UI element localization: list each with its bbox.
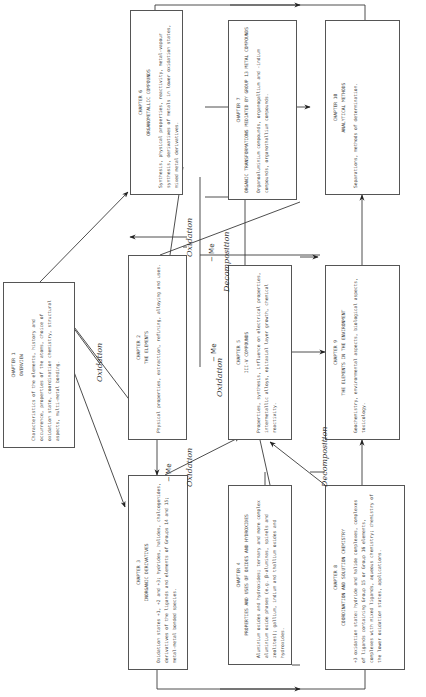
chapter-number: CHAPTER 1	[10, 289, 18, 441]
chapter-number: CHAPTER 7	[235, 27, 243, 193]
chapter-title: ORGANIC TRANSFORMATIONS MEDIATED BY GROU…	[243, 27, 251, 193]
chapter-8-box: CHAPTER 8 COORDINATION AND SOLUTION CHEM…	[325, 485, 405, 670]
chapter-description: Oxidation states +1, +2 and +3; hydrides…	[155, 482, 179, 663]
chapter-10-box: CHAPTER 10 ANALYTICAL METHODS Separation…	[325, 20, 400, 195]
chapter-number: CHAPTER 3	[135, 482, 143, 663]
chapter-title: THE ELEMENTS IN THE ENVIRONMENT	[340, 272, 348, 433]
minus-me-label: − Me	[165, 464, 173, 482]
decomposition-label: Decomposition	[320, 427, 329, 487]
chapter-description: +3 oxidation state: hydride and halide c…	[352, 492, 384, 663]
chapter-number: CHAPTER 6	[137, 17, 145, 188]
minus-me-label: − Me	[208, 244, 216, 262]
chapter-description: Characteristics of the elements, history…	[30, 289, 62, 441]
chapter-9-box: CHAPTER 9 THE ELEMENTS IN THE ENVIRONMEN…	[325, 265, 400, 440]
chapter-number: CHAPTER 4	[235, 492, 243, 658]
chapter-title: INORGANIC DERIVATIVES	[143, 482, 151, 663]
decomposition-label: Decomposition	[222, 232, 231, 292]
chapter-7-box: CHAPTER 7 ORGANIC TRANSFORMATIONS MEDIAT…	[228, 20, 297, 200]
chapter-number: CHAPTER 2	[135, 262, 143, 433]
chapter-number: CHAPTER 8	[332, 492, 340, 663]
chapter-title: III-V COMPOUNDS	[243, 272, 251, 433]
chapter-description: Synthesis, physical properties, reactivi…	[157, 17, 181, 188]
oxidation-label: Oxidation	[185, 218, 194, 257]
oxidation-label: Oxidation	[215, 358, 224, 397]
diagram-canvas: CHAPTER 1 OVERVIEW Characteristics of th…	[0, 0, 426, 697]
chapter-title: ORGANOMETALLIC COMPOUNDS	[145, 17, 153, 188]
chapter-number: CHAPTER 9	[332, 272, 340, 433]
oxidation-label: Oxidation	[185, 448, 194, 487]
chapter-description: Geochemistry, environmental aspects, bio…	[352, 272, 368, 433]
chapter-number: CHAPTER 5	[235, 272, 243, 433]
oxidation-label: Oxidation	[95, 343, 104, 382]
chapter-4-box: CHAPTER 4 PROPERTIES AND USES OF OXIDES …	[228, 485, 292, 665]
minus-me-label: − Me	[210, 344, 218, 362]
chapter-description: Aluminium oxides and hydroxides; ternary…	[255, 492, 287, 658]
chapter-title: THE ELEMENTS	[143, 262, 151, 433]
chapter-title: COORDINATION AND SOLUTION CHEMISTRY	[340, 492, 348, 663]
chapter-title: ANALYTICAL METHODS	[340, 27, 348, 188]
chapter-description: Properties, synthesis, influence on elec…	[255, 272, 279, 433]
chapter-description: Separations, methods of determination.	[352, 27, 360, 188]
chapter-1-box: CHAPTER 1 OVERVIEW Characteristics of th…	[3, 282, 75, 448]
chapter-title: PROPERTIES AND USES OF OXIDES AND HYDROX…	[243, 492, 251, 658]
chapter-2-box: CHAPTER 2 THE ELEMENTS Physical properti…	[128, 255, 187, 440]
chapter-6-box: CHAPTER 6 ORGANOMETALLIC COMPOUNDS Synth…	[130, 10, 183, 195]
chapter-5-box: CHAPTER 5 III-V COMPOUNDS Properties, sy…	[228, 265, 292, 440]
chapter-description: Physical properties, extraction, refinin…	[155, 262, 163, 433]
chapter-description: Organoaluminium compounds, organogallium…	[255, 27, 271, 193]
chapter-title: OVERVIEW	[18, 289, 26, 441]
chapter-number: CHAPTER 10	[332, 27, 340, 188]
chapter-3-box: CHAPTER 3 INORGANIC DERIVATIVES Oxidatio…	[128, 475, 188, 670]
